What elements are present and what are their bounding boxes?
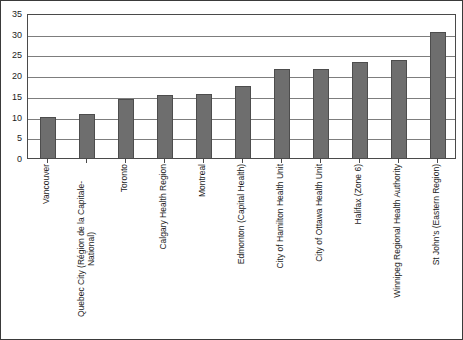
y-tick-label: 10	[12, 113, 22, 122]
x-axis-label: Calgary Health Region	[159, 164, 169, 250]
x-tick	[398, 159, 399, 163]
y-axis: 35302520151050	[1, 1, 25, 159]
x-axis-label-slot: Edmonton (Capital Health)	[222, 164, 261, 334]
x-axis-label-line: National)	[86, 164, 96, 334]
x-axis-label-slot: Quebec City (Région de la Capitale-Natio…	[66, 164, 105, 334]
plot-area	[27, 14, 456, 159]
x-tick	[281, 159, 282, 163]
bar	[430, 32, 446, 158]
x-axis-label-slot: Calgary Health Region	[144, 164, 183, 334]
bar	[274, 69, 290, 158]
x-axis-label-slot: Halifax (Zone 6)	[339, 164, 378, 334]
x-tick	[86, 159, 87, 163]
y-tick-label: 15	[12, 92, 22, 101]
x-axis-label-slot: City of Hamilton Health Unit	[261, 164, 300, 334]
x-tick	[47, 159, 48, 163]
x-axis-label-line: Quebec City (Région de la Capitale-	[76, 164, 86, 334]
x-axis-label: Vancouver	[42, 164, 52, 204]
x-axis-label-slot: Winnipeg Regional Health Authority	[378, 164, 417, 334]
x-tick	[125, 159, 126, 163]
y-tick-label: 20	[12, 72, 22, 81]
x-axis-label: City of Ottawa Health Unit	[315, 164, 325, 262]
x-axis-label-slot: Montreal	[183, 164, 222, 334]
bar	[118, 99, 134, 158]
x-axis-labels: VancouverQuebec City (Région de la Capit…	[27, 164, 456, 336]
x-tick	[203, 159, 204, 163]
bar	[313, 69, 329, 158]
y-tick-label: 35	[12, 10, 22, 19]
x-axis-label: Winnipeg Regional Health Authority	[393, 164, 403, 298]
x-tick	[242, 159, 243, 163]
y-tick-label: 5	[17, 134, 22, 143]
y-tick-label: 25	[12, 51, 22, 60]
x-axis-label-slot: City of Ottawa Health Unit	[300, 164, 339, 334]
x-tick	[437, 159, 438, 163]
bar	[40, 117, 56, 158]
x-axis-label: Quebec City (Région de la Capitale-Natio…	[76, 164, 95, 334]
x-axis-label: Montreal	[198, 164, 208, 197]
x-tick	[359, 159, 360, 163]
x-axis-label: St John's (Eastern Region)	[432, 164, 442, 265]
chart-figure: 35302520151050 VancouverQuebec City (Rég…	[0, 0, 463, 340]
x-axis-label: Toronto	[120, 164, 130, 192]
bar	[196, 94, 212, 158]
bar	[79, 114, 95, 158]
x-axis-label: City of Hamilton Health Unit	[276, 164, 286, 268]
x-axis-label: Halifax (Zone 6)	[354, 164, 364, 224]
x-axis-label-slot: Toronto	[105, 164, 144, 334]
x-axis-label-slot: St John's (Eastern Region)	[417, 164, 456, 334]
y-tick-label: 30	[12, 30, 22, 39]
x-axis-label: Edmonton (Capital Health)	[237, 164, 247, 264]
bar	[157, 95, 173, 158]
bar	[235, 86, 251, 159]
bars-layer	[28, 15, 455, 158]
y-tick-label: 0	[17, 155, 22, 164]
x-tick	[164, 159, 165, 163]
x-tick	[320, 159, 321, 163]
bar	[391, 60, 407, 158]
bar	[352, 62, 368, 158]
x-axis-label-slot: Vancouver	[27, 164, 66, 334]
